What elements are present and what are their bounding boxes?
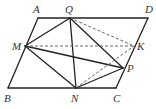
label-Q: Q [65,3,73,15]
dashed-segment-QK [70,18,134,46]
label-D: D [144,3,153,15]
segment-QP [70,18,123,68]
parallelogram-diagram: A Q D M K P B N C [0,0,156,109]
segment-DC [116,18,148,88]
label-A: A [32,3,40,15]
label-K: K [136,40,145,52]
label-P: P [126,62,134,74]
segment-QN [70,18,76,88]
label-N: N [70,92,79,104]
label-C: C [113,92,121,104]
label-M: M [11,40,22,52]
segment-NP [76,68,123,88]
label-B: B [4,92,11,104]
geometry-figure: A Q D M K P B N C [0,0,156,109]
